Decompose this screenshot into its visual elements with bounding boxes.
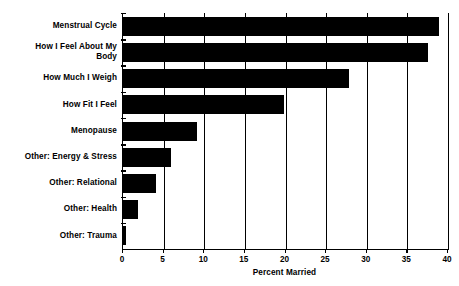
x-axis-tick (203, 249, 204, 253)
y-axis-tick (121, 170, 126, 171)
bar (123, 95, 284, 114)
x-axis-tick-label: 35 (391, 255, 421, 264)
x-axis-tick-label: 10 (188, 255, 218, 264)
x-axis-tick (285, 249, 286, 253)
bar (123, 148, 171, 167)
y-axis-tick (121, 92, 126, 93)
x-axis-title: Percent Married (122, 268, 447, 277)
category-label: Other: Relational (0, 178, 117, 188)
x-axis-tick-label: 0 (107, 255, 137, 264)
y-axis-tick (121, 223, 126, 224)
bar (123, 43, 428, 62)
x-axis-tick-label: 15 (229, 255, 259, 264)
category-label: How I Feel About My Body (0, 42, 117, 61)
category-axis: Menstrual CycleHow I Feel About My BodyH… (0, 13, 117, 249)
x-axis-tick-label: 40 (432, 255, 459, 264)
y-axis-tick (121, 13, 126, 14)
category-label: Other: Energy & Stress (0, 152, 117, 162)
bar (123, 17, 439, 36)
y-axis-tick (121, 144, 126, 145)
x-axis-tick (163, 249, 164, 253)
x-axis-tick (406, 249, 407, 253)
category-label: Other: Trauma (0, 231, 117, 241)
x-axis-tick-label: 20 (270, 255, 300, 264)
x-axis-tick-label: 25 (310, 255, 340, 264)
category-label: Other: Health (0, 204, 117, 214)
bar (123, 174, 156, 193)
x-axis-tick (325, 249, 326, 253)
bar (123, 122, 197, 141)
bar-chart: Menstrual CycleHow I Feel About My BodyH… (0, 0, 459, 286)
x-axis-tick (244, 249, 245, 253)
x-axis-tick (447, 249, 448, 253)
bar (123, 200, 138, 219)
category-label: How Fit I Feel (0, 100, 117, 110)
y-axis-tick (121, 118, 126, 119)
category-label: How Much I Weigh (0, 73, 117, 83)
x-axis-tick-label: 30 (351, 255, 381, 264)
category-label: Menstrual Cycle (0, 21, 117, 31)
category-label: Menopause (0, 126, 117, 136)
x-axis-tick (122, 249, 123, 253)
bar (123, 226, 126, 245)
y-axis-tick (121, 39, 126, 40)
bar (123, 69, 349, 88)
x-axis: Percent Married 0510152025303540 (122, 249, 447, 286)
y-axis-tick (121, 197, 126, 198)
plot-area (122, 13, 449, 250)
y-axis-tick (121, 65, 126, 66)
x-axis-tick-label: 5 (148, 255, 178, 264)
x-axis-tick (366, 249, 367, 253)
